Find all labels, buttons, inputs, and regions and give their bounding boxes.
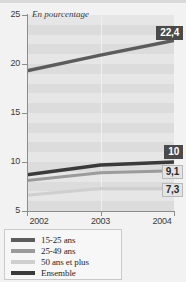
value-callout-25-49-ans: 9,1 (162, 165, 183, 179)
y-tick-label: 20 (10, 58, 20, 68)
y-tick-mark (22, 15, 27, 16)
legend-item-label: 15-25 ans (41, 235, 75, 245)
y-tick-mark (22, 64, 27, 65)
y-tick-label: 5 (15, 205, 20, 215)
x-tick-label: 2002 (29, 216, 48, 226)
value-callout-50-ans-et-plus: 7,3 (162, 183, 183, 197)
legend-item-ensemble[interactable]: Ensemble (11, 267, 76, 278)
legend-item-15-25-ans[interactable]: 15-25 ans (11, 234, 75, 245)
legend-swatch-icon (11, 260, 35, 264)
unit-label: En pourcentage (32, 9, 89, 19)
y-tick-label: 25 (10, 9, 20, 19)
y-tick-label: 15 (10, 107, 20, 117)
y-axis-line (27, 14, 28, 212)
y-tick-mark (22, 162, 27, 163)
series-line-50-ans-et-plus (27, 188, 174, 195)
value-callout-ensemble: 10 (164, 145, 183, 159)
x-tick-mark (27, 211, 28, 216)
legend-item-label: Ensemble (41, 268, 76, 278)
legend-swatch-icon (11, 271, 35, 275)
legend-item-50-ans-et-plus[interactable]: 50 ans et plus (11, 256, 89, 267)
legend-item-label: 25-49 ans (41, 246, 75, 256)
chart-figure: 252015105 200220032004 En pourcentage 22… (0, 0, 186, 282)
legend-swatch-icon (11, 249, 35, 253)
legend-item-25-49-ans[interactable]: 25-49 ans (11, 245, 75, 256)
x-tick-mark (174, 211, 175, 216)
x-tick-label: 2003 (91, 216, 110, 226)
series-line-15-25-ans (27, 40, 174, 70)
series-lines (27, 15, 174, 211)
value-callout-15-25-ans: 22,4 (156, 26, 183, 40)
x-tick-label: 2004 (152, 216, 171, 226)
y-tick-mark (22, 113, 27, 114)
top-banner-strip (0, 0, 186, 3)
legend: 15-25 ans25-49 ans50 ans et plusEnsemble (4, 229, 122, 280)
plot-area (27, 15, 174, 211)
legend-swatch-icon (11, 238, 35, 242)
y-tick-label: 10 (10, 156, 20, 166)
legend-item-label: 50 ans et plus (41, 257, 89, 267)
